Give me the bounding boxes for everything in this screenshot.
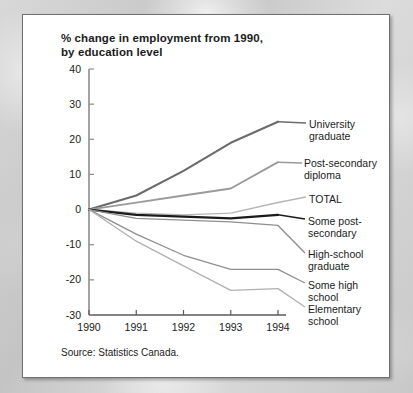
annotation-post-secondary-diploma-line-2: diploma [304, 169, 377, 181]
svg-text:40: 40 [69, 63, 81, 75]
svg-text:1992: 1992 [172, 321, 196, 333]
annotation-university-graduate-line-2: graduate [309, 130, 355, 142]
annotation-university-graduate-line-1: University [309, 118, 355, 130]
annotation-high-school-graduate: High-school graduate [308, 248, 363, 272]
source-note: Source: Statistics Canada. [61, 347, 179, 358]
annotation-some-post-secondary: Some post- secondary [308, 215, 362, 239]
annotation-high-school-graduate-line-1: High-school [308, 248, 363, 260]
annotation-high-school-graduate-line-2: graduate [308, 260, 363, 272]
annotation-some-high-school-line-1: Some high school [308, 279, 389, 303]
svg-text:1990: 1990 [77, 321, 101, 333]
annotation-some-post-secondary-line-2: secondary [308, 227, 362, 239]
annotation-total-line-1: TOTAL [309, 193, 342, 205]
annotation-leader-lines [278, 122, 306, 307]
svg-text:-10: -10 [66, 238, 81, 250]
annotation-total: TOTAL [309, 193, 342, 205]
chart-axes [89, 69, 286, 315]
svg-text:20: 20 [69, 133, 81, 145]
svg-text:1994: 1994 [266, 321, 290, 333]
figure-card: % change in employment from 1990, by edu… [22, 14, 390, 378]
svg-text:1991: 1991 [125, 321, 149, 333]
annotation-university-graduate: University graduate [309, 118, 355, 142]
svg-text:1993: 1993 [219, 321, 243, 333]
annotation-elementary-school: Elementary school [308, 303, 361, 327]
svg-text:30: 30 [69, 98, 81, 110]
annotation-some-post-secondary-line-1: Some post- [308, 215, 362, 227]
annotation-elementary-school-line-1: Elementary [308, 303, 361, 315]
annotation-elementary-school-line-2: school [308, 315, 361, 327]
annotation-post-secondary-diploma-line-1: Post-secondary [304, 157, 377, 169]
annotation-some-high-school: Some high school [308, 279, 389, 303]
chart-series-lines [89, 122, 278, 291]
svg-text:-30: -30 [66, 309, 81, 321]
svg-text:10: 10 [69, 168, 81, 180]
annotation-post-secondary-diploma: Post-secondary diploma [304, 157, 377, 181]
svg-text:0: 0 [75, 203, 81, 215]
svg-text:-20: -20 [66, 273, 81, 285]
chart-tick-labels: -30-20-1001020304019901991199219931994 [66, 63, 290, 333]
